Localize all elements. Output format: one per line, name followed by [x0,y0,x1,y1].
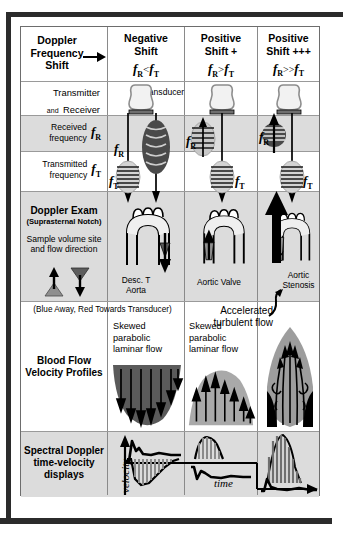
frame-bar-bottom [0,518,332,524]
fr-label-positive: fR [186,133,196,151]
transmitted-frequency-label: Transmitted frequency [42,159,87,180]
header-title-cell: Doppler Frequency Shift [21,27,107,81]
doppler-comparison-table: Doppler Frequency Shift Negative Shift f… [20,26,320,496]
profile-positive-line3: laminar flow [189,344,238,354]
profile-negative-line1: Skewed [113,321,146,331]
transducer-icon-negative [126,83,156,117]
figure-title-line1: Doppler [21,27,107,47]
row-label-velocity-profiles: Blood Flow Velocity Profiles [21,303,107,431]
velocity-profile-positive [187,363,255,429]
col-positive-plus-line2: Shift +++ [258,45,319,58]
col-positive-line1: Positive [185,27,257,45]
and-text: and [47,107,59,114]
column-header-negative: Negative Shift fR<fT [108,27,184,81]
anatomy-label-negative: Desc. T Aorta [111,275,161,296]
received-frequency-symbol: fR [91,124,101,142]
frame-bar-left [6,12,11,523]
col-negative-line2: Shift [108,45,184,58]
accelerated-flow-pointer-icon [267,289,285,317]
received-line1: Received [51,122,87,132]
sample-volume-line1: Sample volume site [21,234,107,244]
sample-volume-away-icon [69,267,91,297]
sample-volume-towards-icon [43,267,65,297]
receiver-label: Receiver [63,104,100,115]
right-arrow-icon [83,51,107,63]
velocity-profile-negative [111,363,183,429]
profile-positive-line2: parabolic [189,333,226,343]
transducer-icon-positive-plus [274,83,304,117]
transmitted-line2: frequency [50,170,88,180]
fr-label-negative: fR [114,141,124,159]
grid-hline-header [21,81,319,82]
spectral-doppler-line3: displays [21,469,107,481]
profile-negative-line3: laminar flow [113,344,162,354]
accelerated-line1: Accelerated [220,305,273,316]
col-positive-formula: fR>fT [185,61,257,79]
col-positive-line2: Shift + [185,45,257,58]
row-label-spectral-doppler: Spectral Doppler time-velocity displays [21,433,107,497]
anatomy-label-positive-plus: Aortic Stenosis [276,270,321,291]
anatomy-negative-line2: Aorta [126,285,146,295]
frame-bar-top [6,12,343,17]
aortic-arch-negative [113,203,183,275]
blood-flow-label-line2: Velocity Profiles [21,367,107,379]
receiver-label-line: and Receiver [21,99,107,117]
grid-vline-3 [257,27,258,495]
row-label-doppler-exam: Doppler Exam (Suprasternal Notch) Sample… [21,193,107,301]
anatomy-label-positive: Aortic Valve [185,277,253,287]
spectral-trace-positive [191,435,253,495]
col-negative-formula: fR<fT [108,61,184,79]
grid-vline-1 [107,27,108,495]
spectral-trace-positive-plus [261,433,319,495]
profile-text-negative: Skewed parabolic laminar flow [113,321,181,356]
spectral-doppler-line2: time-velocity [21,457,107,469]
spectral-trace-negative [125,435,183,495]
row-label-transmitter-receiver: Transmitter and Receiver [21,83,107,115]
suprasternal-notch-label: (Suprasternal Notch) [21,217,107,226]
received-frequency-label: Received frequency [49,122,87,143]
fr-label-positive-plus: fR [259,129,269,147]
anatomy-plus-line1: Aortic [288,270,309,280]
row-label-transmitted-frequency: Transmitted frequency fT [21,153,107,191]
accelerated-flow-arrow [264,191,290,263]
column-header-positive: Positive Shift + fR>fT [185,27,257,81]
aortic-arch-positive [191,203,257,275]
sample-volume-line2: and flow direction [21,244,107,254]
col-positive-plus-line1: Positive [258,27,319,45]
grid-hline-profiles [21,431,319,432]
profile-negative-line2: parabolic [113,333,150,343]
transmitted-frequency-symbol: fT [91,161,101,179]
grid-vline-2 [184,27,185,495]
transducer-icon-positive [207,83,237,117]
col-negative-line1: Negative [108,27,184,45]
figure-frame: Doppler Frequency Shift Negative Shift f… [0,0,343,537]
doppler-exam-title: Doppler Exam [21,193,107,217]
beam-diagram-positive [185,113,257,203]
received-line2: frequency [49,133,87,143]
anatomy-plus-line2: Stenosis [282,280,314,290]
ft-label-positive: fT [235,173,245,191]
blood-flow-label-line1: Blood Flow [21,303,107,367]
row-label-received-frequency: Received frequency fR [21,117,107,151]
transmitter-label: Transmitter [21,83,107,99]
profile-positive-line1: Skewed [189,321,222,331]
profile-text-positive: Skewed parabolic laminar flow [189,321,257,356]
anatomy-negative-line1: Desc. T [122,275,151,285]
transmitted-line1: Transmitted [42,159,87,169]
ft-label-negative: fT [109,173,119,191]
spectral-doppler-line1: Spectral Doppler [21,433,107,457]
column-header-positive-plus: Positive Shift +++ fR>>fT [258,27,319,81]
col-positive-plus-formula: fR>>fT [258,61,319,78]
ft-label-positive-plus: fT [303,173,313,191]
velocity-profile-positive-plus [261,327,319,429]
